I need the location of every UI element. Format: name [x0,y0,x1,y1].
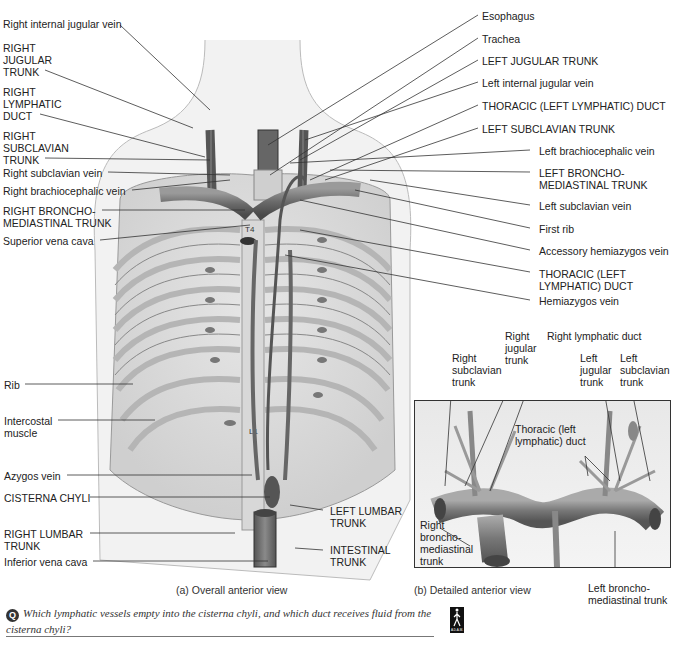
label-superior-vena-cava: Superior vena cava [3,235,93,247]
inset-label-right-jugular-trunk: Right jugular trunk [505,330,537,366]
label-left-lumbar-trunk: LEFT LUMBAR TRUNK [330,505,402,529]
label-azygos-vein: Azygos vein [4,470,61,482]
label-trachea: Trachea [482,33,520,45]
walking-figure-icon [450,607,464,629]
label-right-bronchomediastinal-trunk: RIGHT BRONCHO- MEDIASTINAL TRUNK [3,205,112,229]
question-icon: Q [6,609,19,622]
label-right-subclavian-trunk: RIGHT SUBCLAVIAN TRUNK [3,130,69,166]
label-intercostal-muscle: Intercostal muscle [4,415,52,439]
adam-logo: A.D.A.M. [450,607,464,633]
label-accessory-hemiazygos-vein: Accessory hemiazygos vein [539,245,669,257]
detail-inset: Thoracic (left lymphatic) duct Right bro… [414,400,671,568]
label-intestinal-trunk: INTESTINAL TRUNK [330,544,391,568]
label-right-internal-jugular-vein: Right internal jugular vein [3,18,121,30]
inset-label-left-jugular-trunk: Left jugular trunk [580,352,612,388]
label-first-rib: First rib [539,223,574,235]
label-inferior-vena-cava: Inferior vena cava [4,556,87,568]
question-text-block: QWhich lymphatic vessels empty into the … [6,606,436,636]
caption-overall-anterior-view: (a) Overall anterior view [176,584,287,596]
inset-label-thoracic-duct: Thoracic (left lymphatic) duct [515,423,586,447]
label-esophagus: Esophagus [482,10,535,22]
label-left-internal-jugular-vein: Left internal jugular vein [482,77,594,89]
label-thoracic-duct-top: THORACIC (LEFT LYMPHATIC) DUCT [482,100,666,112]
label-left-subclavian-trunk: LEFT SUBCLAVIAN TRUNK [482,123,615,135]
label-cisterna-chyli: CISTERNA CHYLI [4,492,90,504]
caption-detailed-anterior-view: (b) Detailed anterior view [414,584,531,596]
label-thoracic-duct-mid: THORACIC (LEFT LYMPHATIC) DUCT [539,268,633,292]
question-text: Which lymphatic vessels empty into the c… [6,607,431,635]
label-hemiazygos-vein: Hemiazygos vein [539,295,619,307]
label-left-jugular-trunk: LEFT JUGULAR TRUNK [482,55,598,67]
label-left-bronchomediastinal-trunk: LEFT BRONCHO- MEDIASTINAL TRUNK [539,167,648,191]
label-right-lumbar-trunk: RIGHT LUMBAR TRUNK [4,528,83,552]
label-right-lymphatic-duct: RIGHT LYMPHATIC DUCT [3,86,62,122]
inset-label-right-bronchomediastinal-trunk: Right broncho- mediastinal trunk [420,519,473,567]
inset-label-right-lymphatic-duct: Right lymphatic duct [547,330,642,342]
inset-label-left-subclavian-trunk: Left subclavian trunk [620,352,670,388]
label-left-brachiocephalic-vein: Left brachiocephalic vein [539,145,655,157]
inset-label-left-bronchomediastinal-trunk: Left broncho- mediastinal trunk [588,582,667,606]
label-right-jugular-trunk: RIGHT JUGULAR TRUNK [3,42,52,78]
adam-logo-text: A.D.A.M. [450,628,464,632]
label-right-subclavian-vein: Right subclavian vein [3,167,102,179]
inset-label-right-subclavian-trunk: Right subclavian trunk [452,352,502,388]
question-divider [6,636,434,637]
label-right-brachiocephalic-vein: Right brachiocephalic vein [3,185,126,197]
label-left-subclavian-vein: Left subclavian vein [539,200,631,212]
label-rib: Rib [4,379,20,391]
